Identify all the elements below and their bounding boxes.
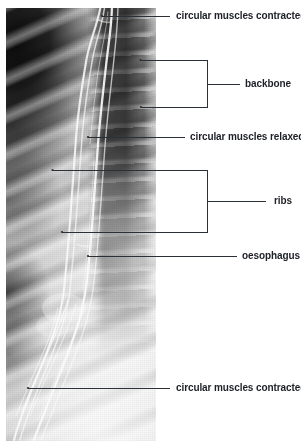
label-oesophagus: oesophagus [242,251,300,261]
xray-film-grain [6,8,156,441]
label-circular-muscles-contracted-bottom: circular muscles contracted [176,383,301,393]
label-circular-muscles-relaxed: circular muscles relaxed [190,132,301,142]
label-ribs: ribs [274,196,292,206]
label-circular-muscles-contracted-top: circular muscles contracted [176,11,301,21]
label-backbone: backbone [245,79,291,89]
annotated-xray-figure: circular muscles contracted backbone cir… [0,0,301,441]
xray-radiograph [6,8,156,441]
